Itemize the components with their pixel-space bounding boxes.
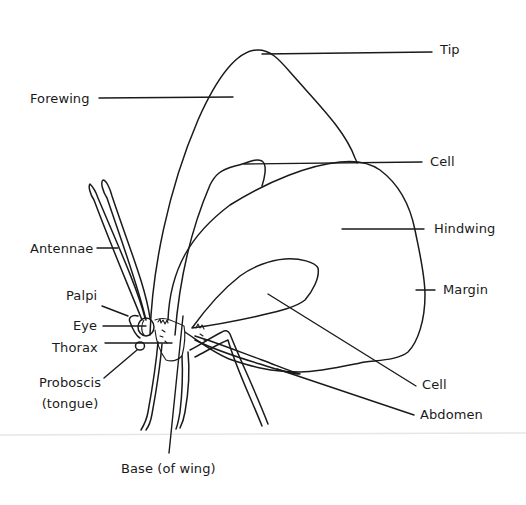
label-hindwing: Hindwing	[434, 221, 495, 236]
label-antennae: Antennae	[30, 241, 93, 256]
label-forewing: Forewing	[30, 91, 90, 106]
ground-line	[0, 433, 526, 435]
label-proboscis-line1: Proboscis	[34, 375, 106, 390]
antenna-right	[102, 180, 150, 320]
butterfly-diagram: Tip Forewing Cell Hindwing Antennae Marg…	[0, 0, 526, 505]
leader-abdomen	[277, 369, 414, 415]
leader-base-of-wing	[169, 316, 183, 453]
leader-tip	[262, 52, 432, 54]
hind-leg	[190, 331, 268, 426]
label-cell-hindwing: Cell	[422, 377, 447, 392]
label-eye: Eye	[73, 318, 97, 333]
eye-highlight	[142, 320, 144, 335]
antenna-left	[89, 184, 145, 320]
label-margin: Margin	[443, 282, 488, 297]
label-proboscis: Proboscis (tongue)	[34, 375, 106, 411]
label-abdomen: Abdomen	[420, 407, 483, 422]
label-cell-forewing: Cell	[430, 154, 455, 169]
leader-palpi	[102, 306, 128, 316]
abdomen-outline	[195, 336, 300, 374]
label-palpi: Palpi	[66, 288, 97, 303]
label-thorax: Thorax	[52, 340, 98, 355]
label-tip: Tip	[440, 42, 460, 57]
leader-cell-forewing	[244, 162, 422, 164]
front-leg	[141, 342, 162, 430]
leader-proboscis	[104, 350, 137, 378]
label-base-of-wing: Base (of wing)	[121, 461, 216, 476]
leader-forewing	[99, 97, 233, 98]
hindwing-cell-outline	[192, 259, 318, 328]
forewing-outline	[150, 50, 357, 335]
label-proboscis-line2: (tongue)	[34, 396, 106, 411]
